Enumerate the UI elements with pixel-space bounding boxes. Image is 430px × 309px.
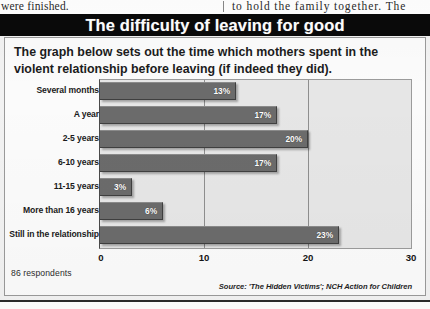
bar-value-6-10-years: 17% xyxy=(255,158,271,168)
category-axis-labels: Several months A year 2-5 years 6-10 yea… xyxy=(5,79,99,249)
bar-value-several-months: 13% xyxy=(214,86,230,96)
category-label-still-in-the-relationship: Still in the relationship xyxy=(5,229,99,239)
plot-area: 13% 17% 20% 17% 3% 6% 23% xyxy=(99,79,412,249)
bar-value-still-in-the-relationship: 23% xyxy=(317,230,333,240)
figure-inner-panel: The graph below sets out the time which … xyxy=(4,37,426,296)
bar-value-a-year: 17% xyxy=(255,110,271,120)
bar-value-more-than-16-years: 6% xyxy=(145,206,157,216)
category-label-6-10-years: 6-10 years xyxy=(5,157,99,167)
x-tick-30: 30 xyxy=(406,252,417,263)
article-left-column-fragment: were finished. xyxy=(1,0,69,12)
article-context-text: were finished. to hold the family togeth… xyxy=(0,0,430,14)
figure-subtitle: The graph below sets out the time which … xyxy=(14,44,418,77)
bar-a-year: 17% xyxy=(100,106,277,124)
bar-11-15-years: 3% xyxy=(100,178,132,196)
article-right-column-fragment: to hold the family together. The xyxy=(232,0,406,12)
category-label-2-5-years: 2-5 years xyxy=(5,133,99,143)
x-tick-0: 0 xyxy=(98,252,103,263)
category-label-a-year: A year xyxy=(5,109,99,119)
bar-several-months: 13% xyxy=(100,82,236,100)
figure-title-bar: The difficulty of leaving for good xyxy=(0,14,430,36)
value-axis: 0 10 20 30 xyxy=(99,249,412,265)
figure-container: The difficulty of leaving for good The g… xyxy=(0,14,430,300)
gridline-20 xyxy=(308,80,309,248)
bar-still-in-the-relationship: 23% xyxy=(100,226,339,244)
x-tick-10: 10 xyxy=(199,252,210,263)
category-label-several-months: Several months xyxy=(5,85,99,95)
bar-value-11-15-years: 3% xyxy=(114,182,126,192)
bar-value-2-5-years: 20% xyxy=(286,134,302,144)
figure-title: The difficulty of leaving for good xyxy=(0,16,430,35)
category-label-more-than-16-years: More than 16 years xyxy=(5,205,99,215)
bar-6-10-years: 17% xyxy=(100,154,277,172)
bar-2-5-years: 20% xyxy=(100,130,308,148)
x-tick-20: 20 xyxy=(303,252,314,263)
bar-more-than-16-years: 6% xyxy=(100,202,163,220)
respondents-note: 86 respondents xyxy=(11,268,72,278)
bar-chart: Several months A year 2-5 years 6-10 yea… xyxy=(5,79,425,295)
column-divider xyxy=(223,1,224,12)
source-credit: Source: 'The Hidden Victims'; NCH Action… xyxy=(219,282,412,291)
page-bottom-rule xyxy=(0,300,430,302)
category-label-11-15-years: 11-15 years xyxy=(5,181,99,191)
